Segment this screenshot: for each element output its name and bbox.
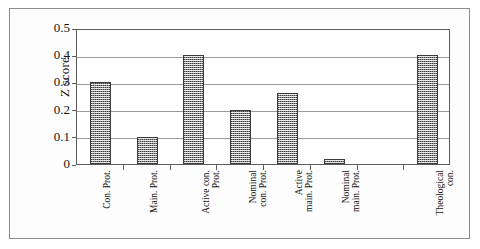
gridline — [77, 111, 449, 112]
plot-area — [76, 29, 450, 165]
bar — [230, 110, 251, 164]
bar — [90, 82, 111, 164]
bar — [324, 159, 345, 164]
y-tick-label: 0.5 — [26, 23, 70, 33]
x-axis-label: Con. Prot. — [103, 170, 121, 238]
y-tick-label: 0.2 — [26, 105, 70, 115]
bar — [277, 93, 298, 164]
x-axis-label: Theologicalcon. — [436, 170, 454, 238]
gridline — [77, 57, 449, 58]
x-axis-label: Active con.Prot. — [202, 170, 220, 238]
x-axis-category-labels: Con. Prot.Main. Prot.Active con.Prot.Nom… — [76, 170, 450, 238]
gridline — [77, 138, 449, 139]
y-tick-label: 0.1 — [26, 132, 70, 142]
y-tick-label: 0 — [26, 159, 70, 169]
bar — [417, 55, 438, 164]
x-axis-label: Activemain. Prot. — [295, 170, 313, 238]
y-tick-label: 0.4 — [26, 50, 70, 60]
bar — [137, 137, 158, 164]
bar — [183, 55, 204, 164]
figure-frame: Z score 00.10.20.30.40.5 Con. Prot.Main.… — [9, 8, 470, 239]
x-axis-label: Nominalcon. Prot. — [249, 170, 267, 238]
gridline — [77, 84, 449, 85]
x-axis-label: Nominalmain. Prot. — [342, 170, 360, 238]
y-tick-label: 0.3 — [26, 77, 70, 87]
x-axis-label: Main. Prot. — [150, 170, 168, 238]
